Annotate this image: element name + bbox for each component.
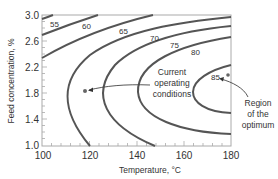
ytick-2.2: 2.2 bbox=[25, 62, 39, 73]
ytick-3.0: 3.0 bbox=[25, 10, 39, 21]
current-label-line1: Current bbox=[158, 67, 187, 77]
contour-label-60: 60 bbox=[82, 22, 91, 31]
current-label-line3: conditions bbox=[153, 89, 191, 99]
contour-chart: 55 60 65 70 75 80 85 Current operating c… bbox=[0, 0, 278, 179]
x-tick-labels: 100 120 140 160 180 bbox=[35, 150, 240, 161]
y-minor-ticks bbox=[42, 22, 47, 139]
optimum-point-marker bbox=[226, 73, 230, 77]
xtick-160: 160 bbox=[176, 150, 193, 161]
optimum-label-line1: Region bbox=[245, 98, 272, 108]
ytick-1.8: 1.8 bbox=[25, 88, 39, 99]
contour-label-85: 85 bbox=[211, 73, 220, 82]
current-label-line2: operating bbox=[154, 78, 190, 88]
x-minor-ticks bbox=[52, 141, 223, 146]
contour-55 bbox=[42, 15, 53, 19]
xtick-120: 120 bbox=[82, 150, 99, 161]
ytick-2.6: 2.6 bbox=[25, 36, 39, 47]
contour-label-75: 75 bbox=[170, 41, 179, 50]
contour-label-65: 65 bbox=[119, 27, 128, 36]
optimum-label-line2: of the bbox=[247, 109, 269, 119]
optimum-arrow-line bbox=[221, 79, 248, 97]
current-arrow-head bbox=[88, 88, 93, 93]
x-axis-title: Temperature, °C bbox=[119, 165, 181, 175]
xtick-140: 140 bbox=[129, 150, 146, 161]
current-annotation: Current operating conditions bbox=[153, 67, 191, 99]
current-arrow-line bbox=[89, 85, 150, 90]
contour-lines bbox=[42, 15, 231, 146]
xtick-180: 180 bbox=[223, 150, 240, 161]
optimum-annotation: Region of the optimum bbox=[242, 98, 275, 130]
contour-label-55: 55 bbox=[50, 20, 59, 29]
contour-label-70: 70 bbox=[150, 34, 159, 43]
current-point-marker bbox=[83, 89, 87, 93]
y-tick-labels: 3.0 2.6 2.2 1.8 1.4 1.0 bbox=[25, 10, 39, 151]
y-axis-title: Feed concentration, % bbox=[6, 38, 16, 123]
ytick-1.4: 1.4 bbox=[25, 114, 39, 125]
optimum-label-line3: optimum bbox=[242, 120, 275, 130]
contour-label-80: 80 bbox=[191, 48, 200, 57]
xtick-100: 100 bbox=[35, 150, 52, 161]
